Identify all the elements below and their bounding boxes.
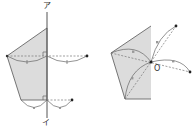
point xyxy=(86,55,89,58)
point xyxy=(175,25,178,28)
shaded-shape-right xyxy=(111,26,151,99)
point xyxy=(6,55,8,57)
left-figure xyxy=(6,12,89,118)
right-figure xyxy=(111,25,191,99)
arc-bottom-right xyxy=(47,100,72,108)
equal-marker xyxy=(33,107,35,109)
equal-marker xyxy=(172,60,174,62)
equal-marker xyxy=(59,107,61,109)
equal-marker xyxy=(132,51,134,53)
arc-bottom-left xyxy=(21,100,47,108)
axis-top-label: ア xyxy=(43,2,51,10)
center-label: O xyxy=(154,65,160,73)
point xyxy=(71,99,74,102)
equal-marker xyxy=(131,77,133,79)
point xyxy=(189,71,192,74)
axis-bottom-label: イ xyxy=(42,119,50,127)
equal-marker xyxy=(156,41,158,43)
diagram-canvas xyxy=(0,0,192,130)
center-point xyxy=(150,61,153,64)
